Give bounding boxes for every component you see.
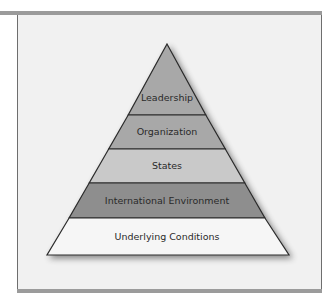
label-underlying-conditions: Underlying Conditions	[114, 231, 219, 242]
label-states: States	[152, 160, 182, 171]
pyramid-diagram: Leadership Organization States Internati…	[0, 0, 336, 302]
label-organization: Organization	[137, 126, 198, 137]
label-international-environment: International Environment	[105, 195, 230, 206]
label-leadership: Leadership	[141, 92, 193, 103]
level-leadership	[128, 44, 206, 115]
